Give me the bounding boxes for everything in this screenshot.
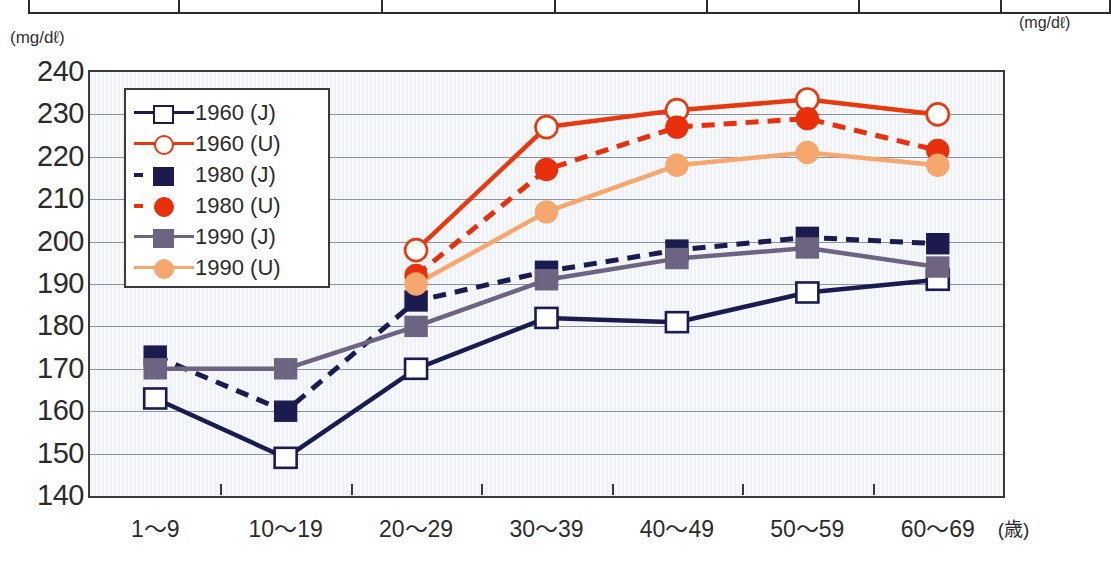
- data-point-marker: [275, 359, 297, 379]
- legend-item-label: 1960 (J): [195, 100, 276, 126]
- data-point-marker: [927, 234, 949, 254]
- data-point-marker: [405, 273, 427, 295]
- data-point-marker: [927, 257, 949, 277]
- y-axis-tick-label: 170: [6, 354, 84, 383]
- x-axis-unit-label: (歳): [998, 514, 1030, 541]
- data-point-marker: [405, 316, 427, 336]
- data-point-marker: [536, 308, 558, 328]
- legend-item: 1980 (U): [126, 190, 328, 221]
- y-axis-tick-label: 200: [6, 227, 84, 256]
- data-point-marker: [666, 116, 688, 138]
- table-divider: [178, 0, 180, 13]
- legend: 1960 (J)1960 (U)1980 (J)1980 (U)1990 (J)…: [124, 88, 330, 288]
- y-axis-tick-label: 150: [6, 439, 84, 468]
- y-axis-tick-label: 160: [6, 396, 84, 425]
- table-divider: [381, 0, 383, 13]
- x-axis-tick-mark: [351, 484, 353, 495]
- data-point-marker: [536, 201, 558, 223]
- legend-marker-icon: [133, 162, 195, 188]
- x-axis-tick-mark: [481, 484, 483, 495]
- data-point-marker: [405, 239, 427, 261]
- x-axis-tick-mark: [612, 484, 614, 495]
- legend-marker-icon: [133, 100, 195, 126]
- y-axis-tick-label: 240: [6, 57, 84, 86]
- x-axis-tick-mark: [873, 484, 875, 495]
- legend-circle-marker: [154, 135, 174, 155]
- data-point-marker: [275, 448, 297, 468]
- legend-square-marker: [153, 167, 174, 186]
- table-divider: [706, 0, 708, 13]
- table-divider: [554, 0, 556, 13]
- data-point-marker: [144, 359, 166, 379]
- table-divider: [1109, 0, 1111, 13]
- data-point-marker: [666, 154, 688, 176]
- data-point-marker: [666, 249, 688, 269]
- legend-marker-icon: [133, 131, 195, 157]
- legend-item: 1990 (J): [126, 221, 328, 252]
- data-point-marker: [927, 154, 949, 176]
- data-point-marker: [796, 282, 818, 302]
- legend-item: 1960 (J): [126, 97, 328, 128]
- data-point-marker: [536, 159, 558, 181]
- legend-marker-icon: [133, 255, 195, 281]
- y-axis-tick-labels: 240230220210200190180170160150140: [0, 0, 84, 565]
- legend-circle-marker: [154, 259, 174, 279]
- cut-off-table-strip: [0, 0, 1111, 16]
- legend-item: 1990 (U): [126, 252, 328, 283]
- table-bottom-border: [28, 12, 1111, 14]
- data-point-marker: [927, 103, 949, 125]
- legend-item-label: 1980 (U): [195, 193, 281, 219]
- y-axis-tick-label: 230: [6, 99, 84, 128]
- legend-item-label: 1990 (U): [195, 255, 281, 281]
- data-point-marker: [536, 270, 558, 290]
- legend-marker-icon: [133, 224, 195, 250]
- data-point-marker: [796, 142, 818, 164]
- legend-item: 1980 (J): [126, 159, 328, 190]
- x-axis-tick-mark: [220, 484, 222, 495]
- data-point-marker: [666, 312, 688, 332]
- legend-circle-marker: [154, 197, 174, 217]
- y-axis-tick-label: 190: [6, 269, 84, 298]
- legend-item-label: 1990 (J): [195, 224, 276, 250]
- x-axis-tick-mark: [742, 484, 744, 495]
- legend-marker-icon: [133, 193, 195, 219]
- chart-page: (mg/dℓ) (mg/dℓ) 240230220210200190180170…: [0, 0, 1111, 565]
- legend-item-label: 1960 (U): [195, 131, 281, 157]
- y-axis-tick-label: 180: [6, 311, 84, 340]
- y-axis-tick-label: 210: [6, 184, 84, 213]
- y-axis-tick-label: 220: [6, 142, 84, 171]
- data-point-marker: [275, 401, 297, 421]
- y-axis-tick-label: 140: [6, 481, 84, 510]
- data-point-marker: [796, 238, 818, 258]
- legend-square-marker: [153, 105, 174, 124]
- top-right-unit-label: (mg/dℓ): [1019, 14, 1070, 32]
- table-divider: [858, 0, 860, 13]
- legend-item-label: 1980 (J): [195, 162, 276, 188]
- data-point-marker: [144, 388, 166, 408]
- legend-square-marker: [153, 229, 174, 248]
- table-divider: [1000, 0, 1002, 13]
- data-point-marker: [536, 116, 558, 138]
- legend-item: 1960 (U): [126, 128, 328, 159]
- data-point-marker: [405, 359, 427, 379]
- data-point-marker: [796, 108, 818, 130]
